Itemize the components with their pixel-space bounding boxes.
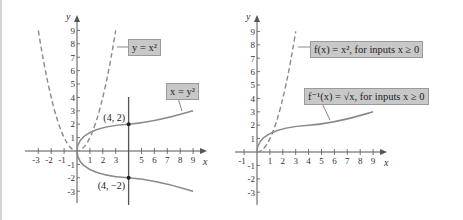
- svg-text:-2: -2: [45, 155, 53, 165]
- left-x-axis-arrow-icon: [200, 148, 207, 154]
- svg-text:-1: -1: [248, 161, 256, 171]
- sideways-parabola-upper: [77, 111, 193, 151]
- svg-text:6: 6: [71, 66, 76, 76]
- svg-text:8: 8: [251, 40, 256, 50]
- svg-text:7: 7: [251, 54, 256, 64]
- svg-text:3: 3: [293, 156, 298, 166]
- svg-text:5: 5: [71, 79, 76, 89]
- svg-text:8: 8: [358, 156, 363, 166]
- svg-text:8: 8: [71, 39, 76, 49]
- left-y-axis-arrow-icon: [74, 15, 80, 22]
- svg-text:-1: -1: [58, 155, 66, 165]
- svg-text:3: 3: [114, 155, 119, 165]
- function-x-squared-dashed: [257, 31, 296, 152]
- point-label-4-2: (4, 2): [103, 112, 125, 124]
- svg-text:-2: -2: [68, 173, 76, 183]
- svg-text:9: 9: [371, 156, 376, 166]
- svg-text:9: 9: [251, 27, 256, 37]
- callout-connector-finv: [322, 103, 330, 120]
- svg-text:2: 2: [71, 119, 76, 129]
- svg-text:5: 5: [251, 80, 256, 90]
- svg-text:1: 1: [268, 156, 273, 166]
- svg-text:7: 7: [345, 156, 350, 166]
- svg-text:3: 3: [251, 107, 256, 117]
- graphs-canvas: -3 -2 -1 1 2 3 5 6 7 8 9 x 9 8 7 6 5 4 3: [0, 0, 463, 220]
- svg-text:-3: -3: [248, 188, 256, 198]
- point-4-neg2: [127, 176, 131, 180]
- right-y-tick-labels: 9 8 7 6 5 4 3 2 1 -1 -2 -3: [248, 27, 256, 198]
- svg-text:-3: -3: [68, 187, 76, 197]
- svg-text:5: 5: [319, 156, 324, 166]
- callout-inverse-definition: f⁻¹(x) = √x, for inputs x ≥ 0: [304, 88, 429, 105]
- left-y-tick-labels: 9 8 7 6 5 4 3 2 1 -1 -2 -3: [68, 26, 76, 197]
- right-x-axis-label: x: [383, 157, 389, 168]
- svg-text:4: 4: [251, 94, 256, 104]
- svg-text:-1: -1: [238, 156, 246, 166]
- svg-text:6: 6: [332, 156, 337, 166]
- svg-text:6: 6: [152, 155, 157, 165]
- svg-text:-1: -1: [68, 160, 76, 170]
- point-4-2: [127, 122, 131, 126]
- svg-text:1: 1: [71, 133, 76, 143]
- left-graph: -3 -2 -1 1 2 3 5 6 7 8 9 x 9 8 7 6 5 4 3: [25, 11, 208, 205]
- right-y-axis-arrow-icon: [254, 15, 260, 22]
- right-x-tick-labels: -1 1 2 3 4 5 6 7 8 9: [238, 156, 376, 166]
- svg-text:8: 8: [178, 155, 183, 165]
- callout-x-equals-y-squared: x = y²: [166, 83, 199, 100]
- svg-text:2: 2: [251, 120, 256, 130]
- right-x-axis-arrow-icon: [380, 149, 387, 155]
- svg-text:-2: -2: [248, 174, 256, 184]
- svg-text:9: 9: [191, 155, 196, 165]
- svg-text:1: 1: [88, 155, 93, 165]
- svg-text:-3: -3: [32, 155, 40, 165]
- left-y-axis-label: y: [65, 11, 71, 22]
- callout-y-equals-x-squared: y = x²: [128, 39, 161, 56]
- left-x-tick-labels: -3 -2 -1 1 2 3 5 6 7 8 9: [32, 155, 196, 165]
- svg-text:9: 9: [71, 26, 76, 36]
- svg-text:3: 3: [71, 106, 76, 116]
- svg-text:7: 7: [165, 155, 170, 165]
- svg-text:1: 1: [251, 134, 256, 144]
- point-label-4-neg2: (4, −2): [98, 180, 125, 192]
- svg-text:6: 6: [251, 67, 256, 77]
- svg-text:2: 2: [101, 155, 106, 165]
- sideways-parabola-lower: [77, 151, 193, 191]
- svg-text:4: 4: [71, 93, 76, 103]
- svg-text:2: 2: [281, 156, 286, 166]
- left-x-axis-label: x: [202, 156, 208, 167]
- svg-text:5: 5: [139, 155, 144, 165]
- svg-text:7: 7: [71, 53, 76, 63]
- svg-text:4: 4: [306, 156, 311, 166]
- right-y-axis-label: y: [245, 11, 251, 22]
- callout-function-definition: f(x) = x², for inputs x ≥ 0: [310, 41, 423, 58]
- inverse-sqrt-curve: [257, 112, 373, 152]
